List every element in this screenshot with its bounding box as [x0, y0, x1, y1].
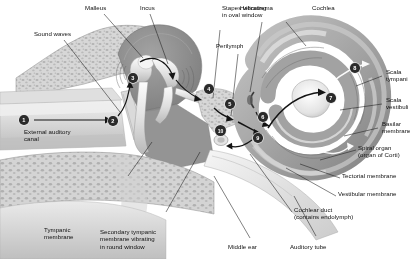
marker-8: 8	[350, 63, 360, 73]
marker-1: 1	[19, 115, 29, 125]
marker-4: 4	[204, 84, 214, 94]
label-incus: Incus	[140, 4, 155, 11]
label-auditory-tube: Auditory tube	[290, 243, 327, 250]
label-malleus: Malleus	[85, 4, 106, 11]
label-middle-ear: Middle ear	[228, 243, 257, 250]
marker-6: 6	[258, 112, 268, 122]
marker-9: 9	[253, 133, 263, 143]
label-cochlea: Cochlea	[312, 4, 335, 11]
label-secondary-tympanic-membrane: Secondary tympanic membrane vibrating in…	[100, 228, 156, 250]
label-helicotrema: Helicotrema	[240, 4, 273, 11]
label-tectorial-membrane: Tectorial membrane	[342, 172, 396, 179]
marker-10: 10	[215, 125, 226, 136]
label-external-auditory-canal: External auditory canal	[24, 128, 71, 143]
label-basilar-membrane: Basilar membrane	[382, 120, 410, 135]
label-tympanic-membrane: Tympanic membrane	[44, 226, 74, 241]
marker-5: 5	[225, 99, 235, 109]
label-sound-waves: Sound waves	[34, 30, 71, 37]
label-vestibular-membrane: Vestibular membrane	[338, 190, 397, 197]
label-scala-tympani: Scala tympani	[386, 68, 408, 83]
label-scala-vestibuli: Scala vestibuli	[386, 96, 408, 111]
marker-2: 2	[108, 116, 118, 126]
label-perilymph: Perilymph	[216, 42, 244, 49]
label-cochlear-duct: Cochlear duct (contains endolymph)	[294, 206, 353, 221]
label-spiral-organ: Spiral organ (organ of Corti)	[358, 144, 400, 159]
marker-3: 3	[128, 73, 138, 83]
ear-anatomy-figure: Malleus Incus Stapes vibrating in oval w…	[0, 0, 410, 259]
marker-7: 7	[326, 93, 336, 103]
